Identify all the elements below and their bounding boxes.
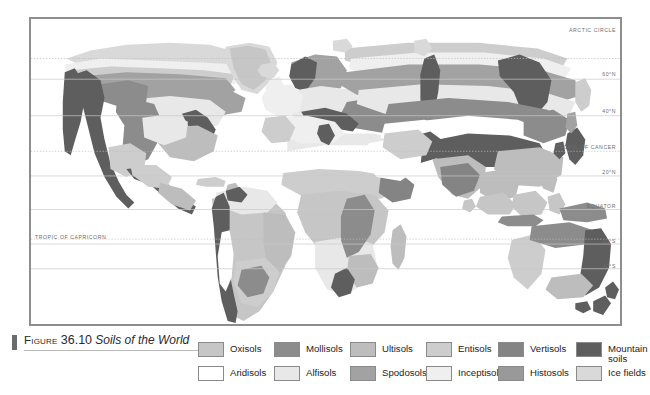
caption-figure-word: Figure — [24, 334, 58, 346]
lat-label-40n: 40°N — [602, 109, 616, 114]
legend-item-aridisols[interactable]: Aridisols — [198, 365, 266, 387]
legend-label-vertisols: Vertisols — [530, 341, 566, 354]
legend-swatch-vertisols — [498, 342, 524, 357]
lat-label-tropic-capricorn: TROPIC OF CAPRICORN — [35, 235, 106, 240]
legend-item-alfisols[interactable]: Alfisols — [274, 365, 336, 387]
legend-item-oxisols[interactable]: Oxisols — [198, 341, 261, 363]
legend-label-mollisols: Mollisols — [306, 341, 343, 354]
legend-swatch-mountain-soils — [576, 342, 602, 357]
legend-label-spodosols: Spodosols — [382, 365, 427, 378]
caption-text: Figure 36.10 Soils of the World — [24, 333, 199, 351]
legend-row-top: Oxisols Mollisols Ultisols Entisols Vert… — [198, 341, 646, 363]
legend-swatch-inceptisols — [426, 366, 452, 381]
legend-row-bottom: Aridisols Alfisols Spodosols Inceptisols… — [198, 365, 646, 387]
legend-item-inceptisols[interactable]: Inceptisols — [426, 365, 503, 387]
legend-item-spodosols[interactable]: Spodosols — [350, 365, 427, 387]
legend-item-ice-fields[interactable]: Ice fields — [576, 365, 646, 387]
legend-item-histosols[interactable]: Histosols — [498, 365, 569, 387]
lat-label-arctic-circle: ARCTIC CIRCLE — [569, 28, 616, 33]
legend-swatch-oxisols — [198, 342, 224, 357]
figure-soils-of-the-world: ARCTIC CIRCLE 60°N 40°N TROPIC OF CANCER… — [0, 0, 650, 395]
lat-label-tropic-cancer: TROPIC OF CANCER — [556, 145, 616, 150]
legend-label-entisols: Entisols — [458, 341, 492, 354]
legend-item-entisols[interactable]: Entisols — [426, 341, 492, 363]
legend-label-mountain-soils: Mountain soils — [608, 341, 647, 363]
map-legend: Oxisols Mollisols Ultisols Entisols Vert… — [198, 341, 646, 389]
legend-swatch-alfisols — [274, 366, 300, 381]
legend-label-oxisols: Oxisols — [230, 341, 261, 354]
caption-figure-title: Soils of the World — [95, 333, 189, 347]
legend-swatch-mollisols — [274, 342, 300, 357]
world-map-frame: ARCTIC CIRCLE 60°N 40°N TROPIC OF CANCER… — [29, 17, 622, 326]
legend-item-mollisols[interactable]: Mollisols — [274, 341, 343, 363]
legend-item-vertisols[interactable]: Vertisols — [498, 341, 566, 363]
legend-item-ultisols[interactable]: Ultisols — [350, 341, 413, 363]
legend-swatch-ultisols — [350, 342, 376, 357]
legend-swatch-spodosols — [350, 366, 376, 381]
legend-label-histosols: Histosols — [530, 365, 569, 378]
world-map-svg — [31, 19, 620, 324]
figure-caption: Figure 36.10 Soils of the World — [12, 333, 212, 359]
lat-label-20n: 20°N — [602, 170, 616, 175]
legend-label-ice-fields: Ice fields — [608, 365, 646, 378]
legend-swatch-histosols — [498, 366, 524, 381]
legend-label-ultisols: Ultisols — [382, 341, 413, 354]
caption-accent-bar — [12, 335, 17, 350]
lat-label-20s: 20°S — [602, 239, 616, 244]
lat-label-40s: 40°S — [602, 264, 616, 269]
legend-swatch-ice-fields — [576, 366, 602, 381]
legend-swatch-aridisols — [198, 366, 224, 381]
legend-item-mountain-soils[interactable]: Mountain soils — [576, 341, 647, 363]
legend-label-inceptisols: Inceptisols — [458, 365, 503, 378]
legend-label-aridisols: Aridisols — [230, 365, 266, 378]
legend-label-alfisols: Alfisols — [306, 365, 336, 378]
lat-label-60n: 60°N — [602, 72, 616, 77]
lat-label-equator: EQUATOR — [587, 204, 616, 209]
caption-figure-number: 36.10 — [61, 333, 92, 347]
legend-swatch-entisols — [426, 342, 452, 357]
